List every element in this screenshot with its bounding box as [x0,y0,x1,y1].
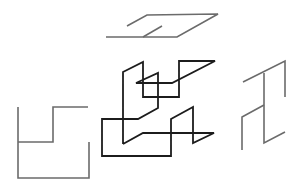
wire-object [102,61,215,156]
top-projection-line [106,14,218,37]
top-projection [106,14,218,37]
side-projection [242,61,285,150]
front-projection-line [18,107,88,142]
front-projection [18,107,89,178]
diagram-canvas [0,0,299,186]
side-projection-line [264,73,285,143]
side-projection-line [242,105,264,150]
top-projection-line [143,26,162,37]
wire-object-line [102,61,215,156]
